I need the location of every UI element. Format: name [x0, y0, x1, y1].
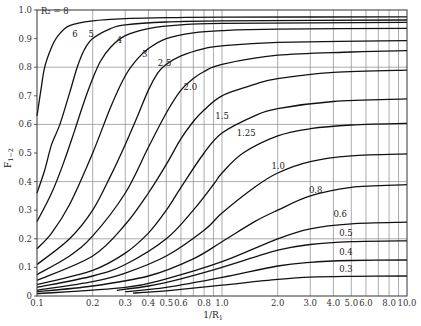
x-tick-label: 0.6	[174, 298, 188, 308]
y-tick-label: 0.3	[18, 205, 32, 215]
y-tick-label: 0.8	[18, 62, 32, 72]
y-tick-label: 0.2	[18, 234, 32, 244]
y-tick-label: 0.7	[18, 91, 32, 101]
curve-label: 5	[89, 29, 94, 39]
y-axis-title: F1−2	[3, 148, 15, 168]
x-tick-label: 0.4	[142, 298, 156, 308]
x-tick-label: 0.5	[160, 298, 174, 308]
x-tick-label: 5.0	[345, 298, 359, 308]
y-tick-label: 0.5	[18, 148, 32, 158]
curve-label: 0.6	[333, 209, 347, 219]
x-tick-label: 1.0	[215, 298, 229, 308]
y-axis-ticks: 00.10.20.30.40.50.60.70.80.91.0	[18, 5, 37, 301]
curve-label: 6	[72, 29, 77, 39]
view-factor-chart: R₂ = 865432.52.01.51.251.00.80.60.50.40.…	[0, 0, 421, 326]
y-tick-label: 1.0	[18, 5, 32, 15]
x-tick-label: 0.2	[86, 298, 100, 308]
curve-label: 2.0	[184, 82, 198, 92]
curve-label: 3	[142, 49, 147, 59]
y-tick-label: 0.1	[18, 262, 32, 272]
x-tick-label: 0.3	[119, 298, 133, 308]
curve-label: 0.5	[339, 228, 353, 238]
curve-label: 2.5	[158, 58, 172, 68]
curve-label: 1.5	[215, 111, 229, 121]
x-tick-label: 8.0	[382, 298, 396, 308]
x-tick-label: 2.0	[271, 298, 285, 308]
curve-labels: R₂ = 865432.52.01.51.251.00.80.60.50.40.…	[41, 6, 353, 273]
x-tick-label: 3.0	[304, 298, 318, 308]
y-tick-label: 0.9	[18, 34, 32, 44]
curve-0.5	[117, 241, 407, 290]
curve-label: 1.25	[237, 128, 256, 138]
x-tick-label: 10.0	[398, 298, 417, 308]
curve-label: 4	[117, 35, 122, 45]
y-tick-label: 0	[27, 291, 32, 301]
x-tick-label: 6.0	[359, 298, 373, 308]
x-tick-label: 0.8	[197, 298, 211, 308]
curve-label: 1.0	[271, 161, 285, 171]
x-tick-label: 0.1	[30, 298, 44, 308]
x-axis-title: 1/R1	[203, 310, 223, 322]
y-tick-label: 0.6	[18, 119, 32, 129]
y-tick-label: 0.4	[18, 177, 32, 187]
x-tick-label: 4.0	[327, 298, 341, 308]
curve-label: R₂ = 8	[41, 6, 69, 16]
curve-label: 0.3	[339, 264, 353, 274]
curve-label: 0.8	[309, 185, 323, 195]
curve-label: 0.4	[339, 247, 353, 257]
x-axis-ticks: 0.10.20.30.40.50.60.81.02.03.04.05.06.08…	[30, 298, 416, 308]
